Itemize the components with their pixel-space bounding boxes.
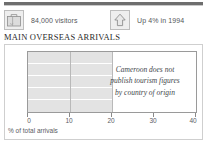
x-axis-tick-label: 40 [189,117,196,124]
chart-gridline-vertical [70,52,71,112]
stat-growth: Up 4% in 1994 [110,9,184,31]
stats-strip: 84,000 visitors Up 4% in 1994 [0,9,207,31]
x-axis-tick-label: 0 [27,117,31,124]
up-arrow-icon [110,10,130,30]
chart-container: Cameroon does not publish tourism figure… [4,44,203,140]
chart-annotation-line-1: Cameroon does not [98,64,192,75]
stat-growth-label: Up 4% in 1994 [137,17,184,24]
x-axis-tick-label: 30 [149,117,156,124]
x-axis-tick-label: 10 [65,117,72,124]
x-axis-tick-label: 20 [107,117,114,124]
page-title: MAIN OVERSEAS ARRIVALS [4,32,120,42]
stat-visitors-label: 84,000 visitors [31,17,78,24]
stat-visitors: 84,000 visitors [4,9,78,31]
chart-annotation-line-2: publish tourism figures [98,75,192,86]
x-axis-title: % of total arrivals [8,127,58,134]
chart-annotation: Cameroon does not publish tourism figure… [98,64,192,98]
chart-annotation-line-3: by country of origin [98,87,192,98]
infographic-panel: 84,000 visitors Up 4% in 1994 MAIN OVERS… [0,0,207,146]
top-divider-shadow [4,5,203,6]
suitcase-icon [4,10,24,30]
chart-plot-area: Cameroon does not publish tourism figure… [27,51,197,113]
